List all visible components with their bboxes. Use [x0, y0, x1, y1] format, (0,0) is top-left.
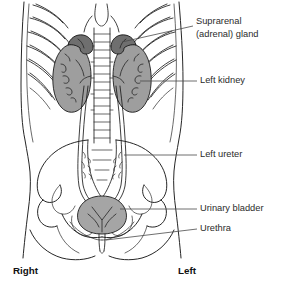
side-label-right: Right [13, 265, 39, 276]
label-suprarenal-gland-line1: Suprarenal [196, 16, 241, 26]
urinary-system-figure: Suprarenal (adrenal) gland Left kidney L… [0, 0, 290, 291]
side-label-left: Left [178, 265, 197, 276]
label-left-ureter: Left ureter [200, 149, 242, 159]
side-orientation-labels: Right Left [13, 265, 197, 276]
label-urinary-bladder: Urinary bladder [200, 203, 264, 213]
urinary-bladder [78, 196, 127, 234]
vertebral-column [91, 28, 113, 143]
leader-suprarenal-gland [122, 26, 193, 42]
label-left-kidney: Left kidney [200, 75, 245, 85]
anatomy-illustration: Suprarenal (adrenal) gland Left kidney L… [0, 0, 290, 291]
label-urethra: Urethra [200, 223, 232, 233]
rib-cage [27, 4, 176, 109]
annotation-labels: Suprarenal (adrenal) gland Left kidney L… [196, 16, 264, 233]
label-suprarenal-gland-line2: (adrenal) gland [196, 29, 259, 39]
